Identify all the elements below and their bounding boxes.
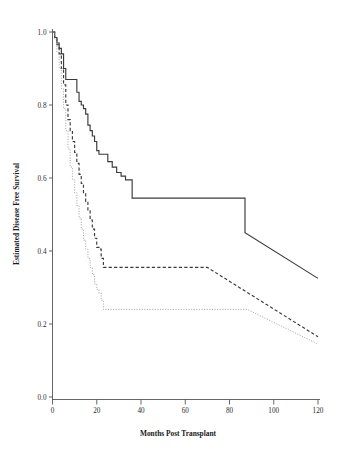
x-tick-label: 100 — [268, 407, 279, 415]
y-tick-label: 0.4 — [38, 248, 47, 256]
y-axis-title: Estimated Disease Free Survival — [12, 163, 21, 265]
kaplan-meier-plot: 0.00.20.40.60.81.0 020406080100120 Month… — [0, 0, 351, 457]
x-tick-label: 0 — [51, 407, 55, 415]
x-axis-title: Months Post Transplant — [140, 429, 217, 438]
x-tick-label: 60 — [182, 407, 190, 415]
y-tick-label: 0.8 — [38, 102, 47, 110]
survival-curve-figure: 0.00.20.40.60.81.0 020406080100120 Month… — [0, 0, 351, 457]
y-tick-label: 1.0 — [38, 29, 47, 37]
y-tick-label: 0.2 — [38, 321, 47, 329]
x-tick-label: 40 — [137, 407, 145, 415]
x-tick-label: 20 — [93, 407, 101, 415]
y-tick-label: 0.0 — [38, 394, 47, 402]
y-tick-label: 0.6 — [38, 175, 47, 183]
x-tick-label: 120 — [313, 407, 324, 415]
x-tick-label: 80 — [226, 407, 234, 415]
